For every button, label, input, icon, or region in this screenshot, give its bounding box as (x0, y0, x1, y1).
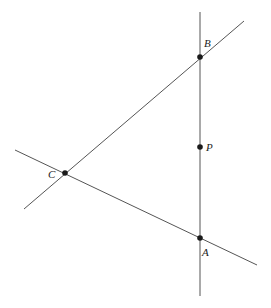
point-B (197, 54, 203, 60)
lines (15, 12, 257, 296)
labels: BPCA (48, 37, 213, 258)
label-B: B (204, 37, 211, 49)
geometry-diagram: BPCA (0, 0, 271, 308)
point-P (197, 144, 203, 150)
label-P: P (205, 141, 213, 153)
label-A: A (201, 246, 209, 258)
points (62, 54, 203, 241)
line-BC (24, 21, 244, 209)
point-C (62, 170, 68, 176)
label-C: C (48, 168, 56, 180)
point-A (197, 235, 203, 241)
